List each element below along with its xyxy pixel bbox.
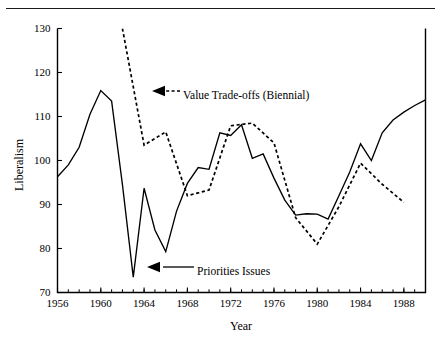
x-axis-tick-labels: 195619601964196819721976198019841988 (47, 297, 416, 309)
y-tick-label: 90 (40, 198, 52, 210)
x-tick-label: 1964 (133, 297, 156, 309)
series-value-tradeoffs (122, 29, 403, 245)
x-tick-label: 1984 (350, 297, 373, 309)
annotation-value-tradeoffs: Value Trade-offs (Biennial) (152, 86, 309, 102)
y-tick-label: 80 (40, 242, 52, 254)
y-tick-label: 130 (34, 22, 51, 34)
series-priorities-issues (58, 91, 426, 278)
figure-page: 708090100110120130 195619601964196819721… (0, 0, 441, 343)
x-tick-label: 1960 (90, 297, 113, 309)
x-tick-label: 1956 (47, 297, 70, 309)
annotation-label: Value Trade-offs (Biennial) (183, 89, 309, 102)
x-axis-ticks (58, 288, 404, 293)
axis-frame (58, 29, 426, 293)
x-tick-label: 1972 (220, 297, 242, 309)
plot-frame (58, 29, 426, 293)
y-tick-label: 110 (34, 110, 51, 122)
y-tick-label: 100 (34, 154, 51, 166)
annotations-layer: Value Trade-offs (Biennial)Priorities Is… (147, 86, 309, 277)
annotation-arrowhead (152, 86, 165, 96)
series-layer (58, 29, 426, 278)
y-axis-tick-labels: 708090100110120130 (34, 22, 51, 298)
annotation-priorities-issues: Priorities Issues (147, 262, 271, 277)
liberalism-over-time-line-chart: 708090100110120130 195619601964196819721… (0, 0, 441, 343)
x-tick-label: 1976 (263, 297, 286, 309)
y-tick-label: 120 (34, 66, 51, 78)
x-axis-title: Year (230, 319, 252, 333)
annotation-label: Priorities Issues (197, 265, 271, 277)
x-tick-label: 1968 (176, 297, 199, 309)
x-tick-label: 1980 (306, 297, 329, 309)
annotation-arrowhead (147, 262, 160, 272)
x-tick-label: 1988 (393, 297, 416, 309)
y-axis-title: Liberalism (12, 138, 26, 191)
